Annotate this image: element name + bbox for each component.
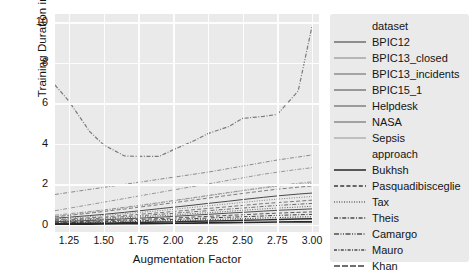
legend-item-label: Camargo [372,226,417,242]
legend-item[interactable]: BPIC12 [330,34,469,50]
legend-line-swatch [330,162,372,178]
legend-line-swatch [330,82,372,98]
legend-line-swatch [330,34,372,50]
legend-item-label: NASA [372,114,402,130]
legend-line-swatch [330,194,372,210]
legend-line-swatch [330,242,372,258]
gridline-horizontal-4 [55,63,319,64]
legend-item-label: BPIC12 [372,34,410,50]
legend-item-label: BPIC15_1 [372,82,422,98]
legend-item[interactable]: BPIC15_1 [330,82,469,98]
legend-item[interactable]: Mauro [330,242,469,258]
x-tick-label: 3.00 [290,234,334,246]
legend-line-swatch [330,210,372,226]
legend-item-label: BPIC13_closed [372,50,448,66]
legend-line-swatch [330,66,372,82]
legend-item[interactable]: BPIC13_incidents [330,66,469,82]
legend-item-label: Tax [372,194,389,210]
gridline-vertical-6 [277,14,278,232]
legend-item[interactable]: Helpdesk [330,98,469,114]
gridline-horizontal-5 [55,22,319,23]
x-axis-title: Augmentation Factor [55,253,319,265]
legend-line-swatch [330,114,372,130]
legend-item-label: Khan [372,258,398,274]
legend-item-label: Helpdesk [372,98,418,114]
legend-line-swatch [330,178,372,194]
legend-key-spacer [330,146,372,162]
legend-item[interactable]: Khan [330,258,469,274]
legend-item[interactable]: Pasquadibisceglie [330,178,469,194]
legend-item[interactable]: NASA [330,114,469,130]
y-tick-label: 10 [14,15,48,27]
gridline-vertical-4 [208,14,209,232]
y-tick-label: 8 [14,56,48,68]
legend-item[interactable]: Camargo [330,226,469,242]
legend-group-title: dataset [330,18,469,34]
gridline-horizontal-3 [55,103,319,104]
legend-line-swatch [330,226,372,242]
gridline-vertical-5 [243,14,244,232]
chart-root: Training Duration in hours 0246810 1.251… [0,0,471,279]
series-line [55,155,312,195]
gridline-vertical-7 [312,14,313,232]
legend-item[interactable]: BPIC13_closed [330,50,469,66]
gridline-vertical-1 [104,14,105,232]
legend[interactable]: datasetBPIC12BPIC13_closedBPIC13_inciden… [330,14,469,262]
series-lines [55,14,319,232]
legend-item-label: Bukhsh [372,162,409,178]
y-tick-label: 2 [14,177,48,189]
series-line [55,212,312,222]
legend-key-spacer [330,18,372,34]
y-tick-label: 4 [14,137,48,149]
legend-group-title-label: approach [372,146,418,162]
series-line [55,26,312,156]
plot-area [55,14,319,232]
gridline-horizontal-2 [55,144,319,145]
legend-item[interactable]: Tax [330,194,469,210]
gridline-vertical-0 [69,14,70,232]
gridline-vertical-2 [138,14,139,232]
gridline-vertical-3 [173,14,174,232]
y-tick-label: 6 [14,96,48,108]
legend-line-swatch [330,130,372,146]
legend-item-label: BPIC13_incidents [372,66,459,82]
legend-group-title-label: dataset [372,18,408,34]
legend-item-label: Pasquadibisceglie [372,178,461,194]
legend-group-title: approach [330,146,469,162]
legend-item[interactable]: Sepsis [330,130,469,146]
legend-item[interactable]: Theis [330,210,469,226]
series-line [55,200,312,219]
legend-line-swatch [330,50,372,66]
y-tick-label: 0 [14,218,48,230]
legend-item[interactable]: Bukhsh [330,162,469,178]
gridline-horizontal-0 [55,225,319,226]
gridline-horizontal-1 [55,184,319,185]
legend-line-swatch [330,258,372,274]
legend-line-swatch [330,98,372,114]
legend-item-label: Mauro [372,242,403,258]
legend-item-label: Theis [372,210,399,226]
legend-item-label: Sepsis [372,130,405,146]
